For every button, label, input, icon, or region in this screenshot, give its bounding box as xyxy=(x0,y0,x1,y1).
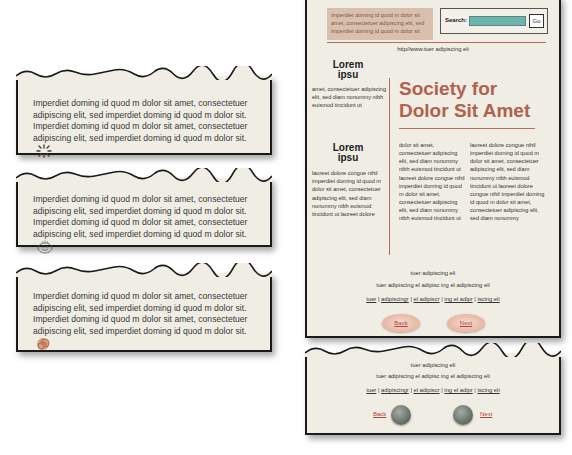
footer-links: tuer | adipiscingr | el adipiscr | ing e… xyxy=(307,296,559,302)
card-body: Imperdiet doming id quod m dolor sit ame… xyxy=(33,194,247,239)
footer-link[interactable]: el adipiscr xyxy=(414,296,440,302)
heading-line: ipsu xyxy=(311,70,385,80)
wavy-edge xyxy=(16,66,272,80)
sidebar-heading-2: Lorem ipsu xyxy=(311,143,385,163)
text-card-2: Imperdiet doming id quod m dolor sit ame… xyxy=(16,178,272,247)
search-input[interactable] xyxy=(469,16,526,26)
back-button[interactable]: Back xyxy=(382,314,420,332)
search-box: Search: Go xyxy=(440,8,548,34)
back-link[interactable]: Back xyxy=(373,411,386,417)
wavy-edge xyxy=(305,343,561,357)
body-column-2: laoreet dolore congue nihil imperdiet do… xyxy=(470,141,548,223)
next-round-button[interactable] xyxy=(453,405,473,425)
sparkle-icon xyxy=(36,144,52,162)
card-body: Imperdiet doming id quod m dolor sit ame… xyxy=(33,291,247,336)
title-divider xyxy=(399,128,535,129)
footer-link[interactable]: adipiscingr xyxy=(381,296,409,302)
footer-link[interactable]: iscing eli xyxy=(477,387,499,393)
column-divider xyxy=(389,78,390,255)
header-blurb: imperdiet doming id quod m dolor sit ame… xyxy=(327,8,433,40)
card-body: Imperdiet doming id quod m dolor sit ame… xyxy=(33,98,247,143)
footer-line-1: tuer adipiscing eli xyxy=(307,362,559,368)
page-title: Society for Dolor Sit Amet xyxy=(399,78,530,122)
footer-line-1: tuer adipiscing eli xyxy=(307,270,559,276)
footer-link[interactable]: tuer xyxy=(366,296,376,302)
wavy-edge xyxy=(16,168,272,182)
footer-link[interactable]: el adipiscr xyxy=(414,387,440,393)
next-button[interactable]: Next xyxy=(447,314,485,332)
card-text: Imperdiet doming id quod m dolor sit ame… xyxy=(33,194,258,258)
text-card-1: Imperdiet doming id quod m dolor sit ame… xyxy=(16,76,272,155)
footer-line-2: tuer adipiscing el adipisc ing el adipis… xyxy=(307,373,559,379)
search-label: Search: xyxy=(445,17,467,23)
back-round-button[interactable] xyxy=(391,405,411,425)
footer-link[interactable]: iscing eli xyxy=(477,296,499,302)
next-link[interactable]: Next xyxy=(480,411,492,417)
footer-link[interactable]: adipiscingr xyxy=(381,387,409,393)
body-column-1: dolor sit amet, consectetuer adipiscing … xyxy=(399,141,467,223)
sidebar-text-2: laoreet dolore congue nihil imperdiet do… xyxy=(312,169,382,218)
footer-link[interactable]: ing el adipr xyxy=(444,296,472,302)
smiley-doodle-icon xyxy=(36,240,54,258)
text-card-3: Imperdiet doming id quod m dolor sit ame… xyxy=(16,273,272,352)
wavy-edge xyxy=(16,263,272,277)
title-line: Society for xyxy=(399,78,530,100)
heading-line: ipsu xyxy=(311,153,385,163)
spiral-shell-icon xyxy=(36,337,50,355)
divider xyxy=(327,42,546,43)
go-button[interactable]: Go xyxy=(529,14,544,28)
sidebar-heading-1: Lorem ipsu xyxy=(311,60,385,80)
footer-line-2: tuer adipiscing el adipisc ing el adipis… xyxy=(307,282,559,288)
footer-link[interactable]: tuer xyxy=(366,387,376,393)
card-text: Imperdiet doming id quod m dolor sit ame… xyxy=(33,98,258,162)
website-mockup: imperdiet doming id quod m dolor sit ame… xyxy=(305,0,561,338)
card-text: Imperdiet doming id quod m dolor sit ame… xyxy=(33,291,258,355)
title-line: Dolor Sit Amet xyxy=(399,100,530,122)
sidebar-text-1: amet, consectetuer adipiscing elit, sed … xyxy=(312,85,388,110)
footer-links: tuer | adipiscingr | el adipiscr | ing e… xyxy=(307,387,559,393)
site-url: http//www.tuer adipiscing eli xyxy=(307,46,559,52)
bottom-nav-card: tuer adipiscing eli tuer adipiscing el a… xyxy=(305,353,561,435)
footer-link[interactable]: ing el adipr xyxy=(444,387,472,393)
